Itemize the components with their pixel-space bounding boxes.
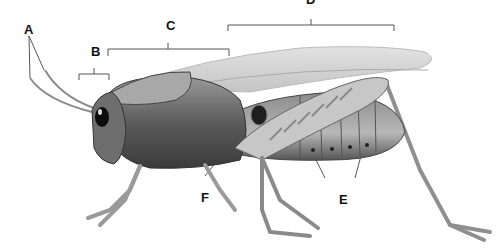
head	[92, 92, 126, 164]
compound-eye	[95, 107, 109, 127]
antennae	[30, 70, 94, 112]
label-b: B	[91, 45, 100, 58]
tympanum	[251, 105, 267, 125]
label-d: D	[306, 0, 315, 6]
label-f: F	[201, 191, 209, 204]
grasshopper-illustration	[0, 0, 504, 249]
label-e: E	[339, 193, 348, 206]
label-c: C	[166, 19, 175, 32]
label-a: A	[24, 23, 33, 36]
grasshopper-diagram: A B C D E F	[0, 0, 504, 249]
